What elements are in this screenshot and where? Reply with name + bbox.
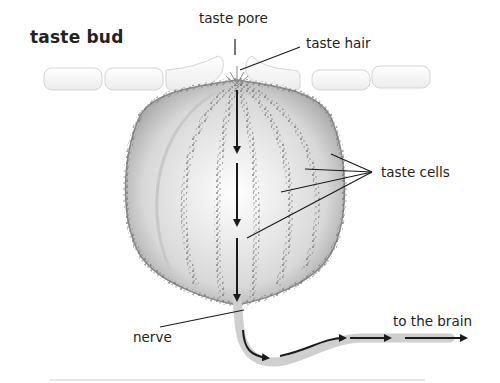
label-taste-cells: taste cells <box>381 164 450 180</box>
nerve-fiber <box>237 300 466 362</box>
label-taste-pore: taste pore <box>199 10 268 26</box>
diagram-title: taste bud <box>30 27 124 47</box>
label-to-the-brain: to the brain <box>393 313 472 329</box>
label-nerve: nerve <box>133 329 172 345</box>
label-taste-hair: taste hair <box>306 35 371 51</box>
taste-bud-diagram: taste bud taste pore taste hair taste ce… <box>0 0 500 383</box>
bottom-divider <box>50 379 425 381</box>
